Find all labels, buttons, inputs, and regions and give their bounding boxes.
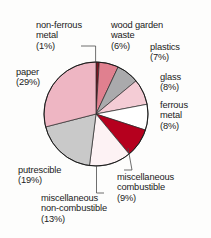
leader-line-miscellaneous-non-combustible: [97, 165, 105, 193]
slice-label-miscellaneous-combustible: miscellaneous combustible (9%): [117, 172, 174, 203]
slice-label-miscellaneous-non-combustible: miscellaneous non-combustible (13%): [41, 193, 107, 224]
leader-line-non-ferrous-metal: [81, 46, 96, 62]
slice-label-paper: paper (29%): [16, 67, 40, 88]
slice-label-putrescible: putrescible (19%): [18, 165, 61, 186]
slice-label-ferrous-metal: ferrous metal (8%): [160, 100, 188, 131]
pie-chart-figure: non-ferrous metal (1%) wood garden waste…: [0, 0, 211, 238]
slice-label-non-ferrous-metal: non-ferrous metal (1%): [36, 20, 82, 51]
pie-slices-group: [44, 62, 148, 166]
slice-label-plastics: plastics (7%): [150, 42, 180, 63]
slice-label-glass: glass (8%): [160, 72, 181, 93]
